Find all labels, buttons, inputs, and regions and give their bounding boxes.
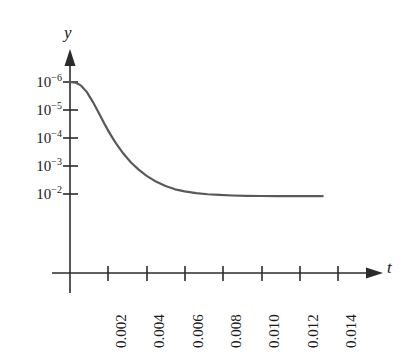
x-tick-label: 0.014 xyxy=(344,314,359,348)
x-tick-label: 0.008 xyxy=(229,314,244,348)
chart-figure: y t 10−610−510−410−310−2 0.0020.0040.006… xyxy=(0,0,405,359)
x-tick-label: 0.004 xyxy=(152,314,167,348)
x-tick-label: 0.006 xyxy=(191,314,206,348)
x-tick-label: 0.002 xyxy=(114,314,129,348)
x-tick-label: 0.010 xyxy=(267,314,282,348)
x-tick-label-group: 0.0020.0040.0060.0080.0100.0120.014 xyxy=(0,0,405,359)
x-tick-label: 0.012 xyxy=(306,314,321,348)
